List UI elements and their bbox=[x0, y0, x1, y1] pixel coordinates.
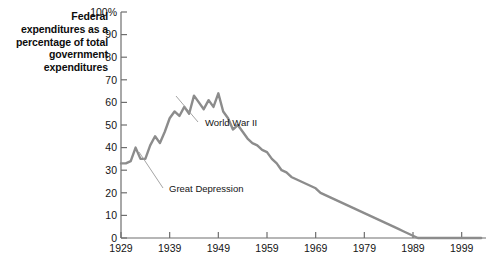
y-tick-label: 60 bbox=[105, 96, 117, 108]
x-tick-label: 1989 bbox=[401, 242, 425, 254]
y-tick-labels: 100%9080706050403020100 bbox=[90, 6, 117, 244]
y-tick-label: 90 bbox=[105, 28, 117, 40]
data-series-group bbox=[121, 93, 481, 238]
annotation-leader-line bbox=[139, 152, 163, 188]
y-tick-label: 20 bbox=[105, 187, 117, 199]
y-tick-label: 40 bbox=[105, 141, 117, 153]
y-tick-label: 80 bbox=[105, 51, 117, 63]
x-tick-label: 1999 bbox=[450, 242, 474, 254]
annotation-label: World War II bbox=[205, 117, 257, 128]
x-tick-label: 1949 bbox=[207, 242, 231, 254]
x-tick-label: 1959 bbox=[255, 242, 279, 254]
x-tick-labels: 19291939194919591969197919891999 bbox=[109, 242, 473, 254]
y-tick-label: 30 bbox=[105, 164, 117, 176]
y-tick-label: 10 bbox=[105, 209, 117, 221]
y-axis-group: 100%9080706050403020100 bbox=[90, 6, 127, 244]
annotation-label: Great Depression bbox=[169, 183, 243, 194]
x-tick-label: 1929 bbox=[109, 242, 133, 254]
y-tick-marks bbox=[121, 12, 127, 238]
x-tick-label: 1939 bbox=[158, 242, 182, 254]
y-tick-label: 100% bbox=[90, 6, 117, 18]
y-tick-label: 50 bbox=[105, 119, 117, 131]
x-axis-group: 19291939194919591969197919891999 bbox=[109, 232, 486, 254]
annotations-group: World War IIGreat Depression bbox=[139, 96, 257, 194]
x-tick-label: 1979 bbox=[353, 242, 377, 254]
chart-svg: 100%9080706050403020100 1929193919491959… bbox=[0, 0, 498, 266]
x-tick-label: 1969 bbox=[304, 242, 328, 254]
y-tick-label: 70 bbox=[105, 74, 117, 86]
data-line bbox=[121, 93, 481, 238]
chart-figure: Federal expenditures as a percentage of … bbox=[0, 0, 498, 266]
annotation-leader-line bbox=[176, 96, 198, 122]
